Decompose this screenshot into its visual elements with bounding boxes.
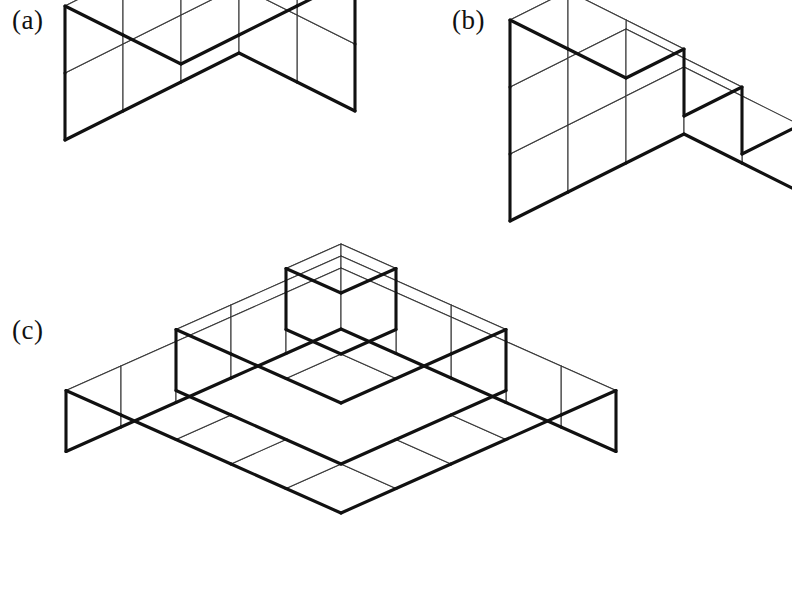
figure-c-drawing: [0, 0, 792, 610]
